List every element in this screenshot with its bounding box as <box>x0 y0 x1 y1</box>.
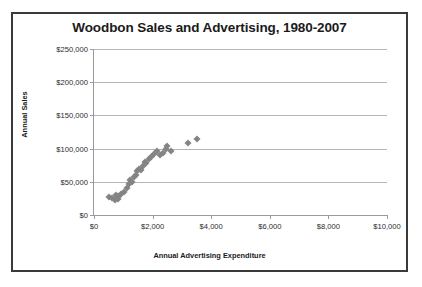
x-axis-tick-label: $2,000 <box>141 222 164 231</box>
x-axis-line <box>93 215 387 216</box>
gridline <box>94 182 387 183</box>
plot-area: $0$50,000$100,000$150,000$200,000$250,00… <box>94 49 387 215</box>
x-axis-tick <box>270 215 271 219</box>
x-axis-tick <box>153 215 154 219</box>
x-axis-tick <box>211 215 212 219</box>
x-axis-tick <box>328 215 329 219</box>
y-axis-tick-label: $50,000 <box>61 177 88 186</box>
y-axis-tick-label: $150,000 <box>56 111 88 120</box>
x-axis-tick <box>387 215 388 219</box>
x-axis-tick-label: $0 <box>90 222 98 231</box>
x-axis-title: Annual Advertising Expenditure <box>13 251 406 260</box>
x-axis-tick-label: $8,000 <box>317 222 340 231</box>
y-axis-tick-label: $0 <box>80 211 88 220</box>
y-axis-tick <box>90 115 94 116</box>
x-axis-tick <box>94 215 95 219</box>
x-axis-tick-label: $6,000 <box>258 222 281 231</box>
gridline <box>94 82 387 83</box>
x-axis-tick-label: $4,000 <box>200 222 223 231</box>
chart-title: Woodbon Sales and Advertising, 1980-2007 <box>13 20 406 35</box>
y-axis-tick-label: $100,000 <box>56 144 88 153</box>
y-axis-tick-label: $250,000 <box>56 45 88 54</box>
y-axis-title: Annual Sales <box>20 85 29 145</box>
gridline <box>94 49 387 50</box>
x-axis-tick-label: $10,000 <box>373 222 400 231</box>
y-axis-tick-label: $200,000 <box>56 78 88 87</box>
gridline <box>94 149 387 150</box>
y-axis-tick <box>90 49 94 50</box>
y-axis-tick <box>90 149 94 150</box>
chart-frame: Woodbon Sales and Advertising, 1980-2007… <box>11 12 408 272</box>
data-point <box>167 148 174 155</box>
y-axis-tick <box>90 182 94 183</box>
data-point <box>184 140 191 147</box>
y-axis-tick <box>90 82 94 83</box>
y-axis-line <box>93 49 94 215</box>
gridline <box>94 115 387 116</box>
data-point <box>193 135 200 142</box>
